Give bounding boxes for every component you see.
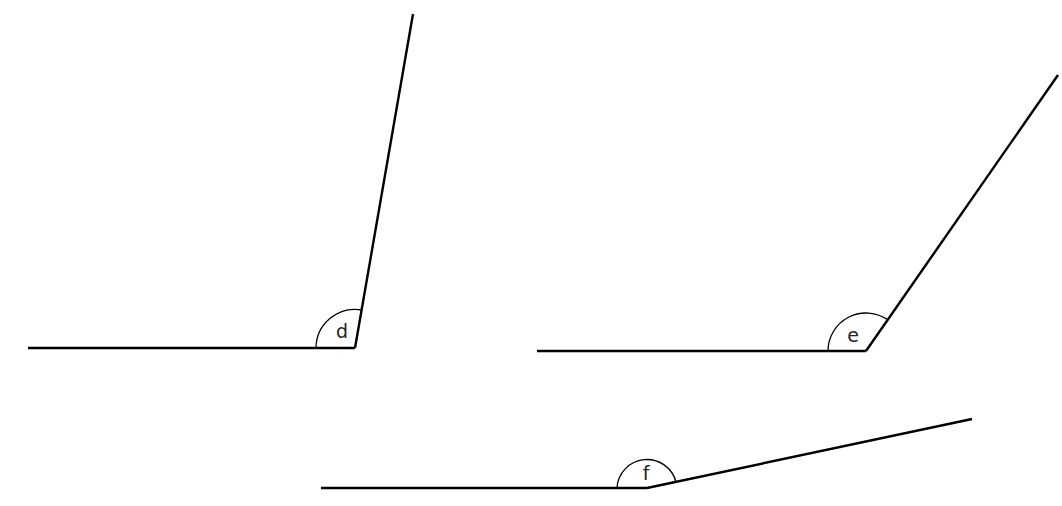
angle-f: f bbox=[321, 419, 972, 488]
angle-e: e bbox=[537, 75, 1058, 351]
angle-e-slanted-arm bbox=[866, 75, 1058, 351]
angle-d-slanted-arm bbox=[355, 14, 413, 348]
angle-d: d bbox=[28, 14, 413, 348]
angle-e-label: e bbox=[847, 324, 859, 346]
angle-f-label: f bbox=[643, 462, 651, 484]
angles-diagram: d e f bbox=[0, 0, 1062, 506]
angle-d-label: d bbox=[336, 320, 348, 342]
angle-f-slanted-arm bbox=[647, 419, 972, 488]
